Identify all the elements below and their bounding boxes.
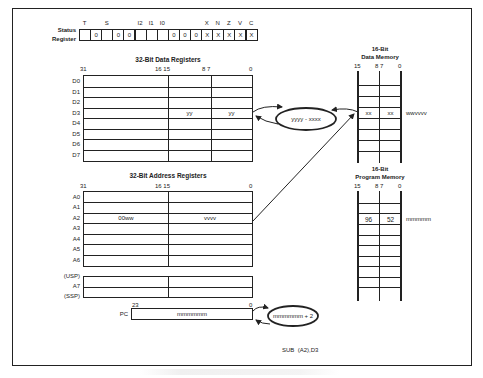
instruction-label: SUB (A2),D3 [282, 347, 318, 354]
pc-increment-text: mmmmmm + 2 [268, 313, 318, 320]
flow-arrows-overlay [0, 0, 483, 378]
caption-strip [140, 369, 340, 375]
alu-bubble-text: yyyy - xxxx [276, 116, 336, 123]
